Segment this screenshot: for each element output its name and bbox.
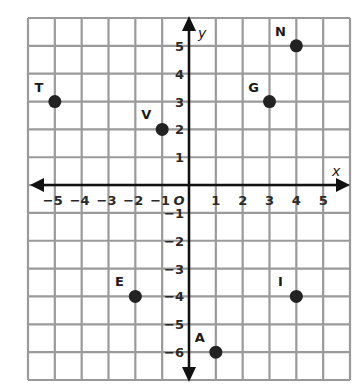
- point-v-marker: [156, 123, 169, 136]
- x-tick-label: 1: [211, 193, 220, 208]
- point-t-marker: [48, 95, 61, 108]
- y-axis-label: y: [197, 25, 207, 41]
- x-tick-label: −2: [123, 193, 143, 208]
- y-tick-label: −5: [164, 317, 184, 332]
- point-t-label: T: [34, 80, 43, 95]
- x-tick-label: −5: [43, 193, 63, 208]
- x-tick-label: 2: [238, 193, 247, 208]
- y-tick-label: 5: [175, 39, 184, 54]
- point-g-marker: [263, 95, 276, 108]
- y-tick-label: −2: [164, 234, 184, 249]
- point-v-label: V: [141, 107, 151, 122]
- x-tick-label: −4: [70, 193, 90, 208]
- point-i-label: I: [278, 274, 283, 289]
- point-n-label: N: [275, 24, 286, 39]
- x-tick-label: 5: [319, 193, 328, 208]
- y-tick-label: 4: [175, 67, 184, 82]
- y-tick-label: 3: [175, 95, 184, 110]
- x-tick-label: 3: [265, 193, 274, 208]
- point-i-marker: [290, 290, 303, 303]
- x-axis-right-arrow-icon: [336, 178, 350, 192]
- y-tick-label: 2: [175, 122, 184, 137]
- x-tick-label: −3: [97, 193, 117, 208]
- point-e-marker: [129, 290, 142, 303]
- y-tick-label: −4: [164, 289, 184, 304]
- point-n-marker: [290, 39, 303, 52]
- point-a-marker: [209, 346, 222, 359]
- x-axis-label: x: [331, 163, 341, 179]
- x-tick-label: 4: [292, 193, 301, 208]
- y-tick-label: −6: [164, 345, 184, 360]
- y-tick-label: −3: [164, 262, 184, 277]
- tick-labels: −5−4−3−2−112345O54321−1−2−3−4−5−6: [43, 39, 328, 360]
- point-a-label: A: [195, 330, 205, 345]
- point-e-label: E: [115, 274, 124, 289]
- point-g-label: G: [248, 80, 259, 95]
- coordinate-plane: xy −5−4−3−2−112345O54321−1−2−3−4−5−6 TVG…: [0, 0, 359, 391]
- y-tick-label: 1: [175, 150, 184, 165]
- y-tick-label: −1: [164, 206, 184, 221]
- x-axis-left-arrow-icon: [30, 178, 44, 192]
